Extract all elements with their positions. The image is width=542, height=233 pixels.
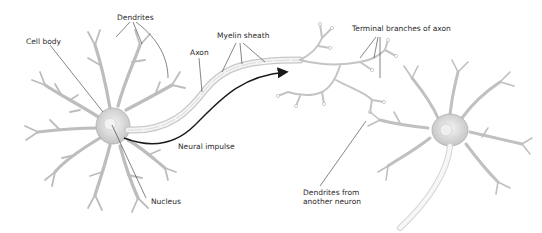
neuron-2-nucleus [440,124,452,136]
label-cell-body: Cell body [26,37,61,46]
terminal-buttons [276,22,397,113]
label-dendrites-from-another-neuron: Dendrites from another neuron [303,188,361,206]
neuron-1-nucleus [104,118,116,130]
label-nucleus: Nucleus [151,197,181,206]
neural-impulse-arrow [124,72,286,144]
axon-terminal-branches [278,24,396,112]
label-neural-impulse: Neural impulse [178,142,235,151]
label-line-2: another neuron [303,197,361,206]
neuron-2-axon [400,146,450,228]
label-myelin-sheath: Myelin sheath [217,31,269,40]
label-terminal-branches: Terminal branches of axon [352,24,451,33]
label-axon: Axon [190,48,209,57]
neuron-diagram [0,0,542,233]
label-line-1: Dendrites from [303,188,361,197]
label-dendrites: Dendrites [117,13,154,22]
